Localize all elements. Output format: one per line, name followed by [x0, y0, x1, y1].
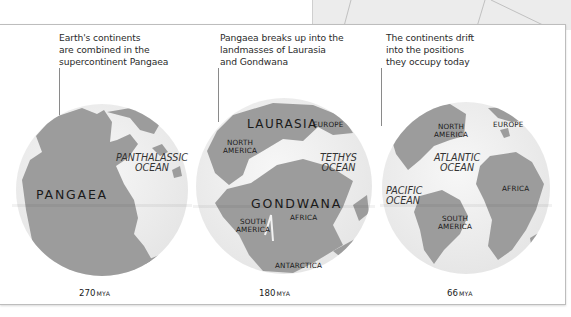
label-gondwana: GONDWANA: [251, 197, 342, 210]
era-value: 180: [259, 288, 275, 298]
caption-line: Pangaea breaks up into the: [220, 32, 344, 44]
label-line: AMERICA: [236, 226, 270, 234]
caption-line: The continents drift: [386, 32, 474, 44]
label-europe: EUROPE: [313, 121, 344, 129]
label-line: OCEAN: [434, 163, 480, 173]
caption-line: are combined in the: [59, 44, 168, 56]
label-south-america: SOUTH AMERICA: [438, 215, 472, 230]
label-north-america: NORTH AMERICA: [223, 139, 257, 154]
label-tethys-ocean: TETHYS OCEAN: [320, 153, 357, 173]
label-north-america: NORTH AMERICA: [434, 123, 468, 138]
caption-line: Earth's continents: [59, 32, 168, 44]
caption-line: they occupy today: [386, 56, 474, 68]
era-label-66: 66MYA: [447, 288, 473, 298]
label-pangaea: PANGAEA: [36, 188, 108, 201]
label-south-america: SOUTH AMERICA: [236, 218, 270, 233]
label-panthalassic-ocean: PANTHALASSIC OCEAN: [116, 153, 188, 173]
label-antarctica: ANTARCTICA: [275, 262, 322, 270]
label-line: OCEAN: [116, 163, 188, 173]
label-line: OCEAN: [320, 163, 357, 173]
label-line: OCEAN: [386, 196, 422, 206]
caption-breakup: Pangaea breaks up into the landmasses of…: [220, 32, 344, 68]
label-africa: AFRICA: [502, 185, 529, 193]
label-laurasia: LAURASIA: [247, 118, 318, 131]
label-africa: AFRICA: [290, 214, 317, 222]
caption-line: landmasses of Laurasia: [220, 44, 344, 56]
era-label-180: 180MYA: [259, 288, 290, 298]
label-europe: EUROPE: [493, 121, 524, 129]
era-unit: MYA: [96, 290, 110, 297]
continental-drift-panel: Earth's continents are combined in the s…: [0, 24, 566, 305]
caption-line: and Gondwana: [220, 56, 344, 68]
era-label-270: 270MYA: [79, 288, 110, 298]
label-line: AMERICA: [434, 131, 468, 139]
era-unit: MYA: [459, 290, 473, 297]
era-value: 270: [79, 288, 95, 298]
label-line: AMERICA: [223, 147, 257, 155]
label-atlantic-ocean: ATLANTIC OCEAN: [434, 153, 480, 173]
label-line: AMERICA: [438, 223, 472, 231]
caption-drift: The continents drift into the positions …: [386, 32, 474, 68]
caption-line: into the positions: [386, 44, 474, 56]
caption-pangaea: Earth's continents are combined in the s…: [59, 32, 168, 68]
era-unit: MYA: [276, 290, 290, 297]
label-pacific-ocean: PACIFIC OCEAN: [386, 186, 422, 206]
caption-line: supercontinent Pangaea: [59, 56, 168, 68]
era-value: 66: [447, 288, 458, 298]
